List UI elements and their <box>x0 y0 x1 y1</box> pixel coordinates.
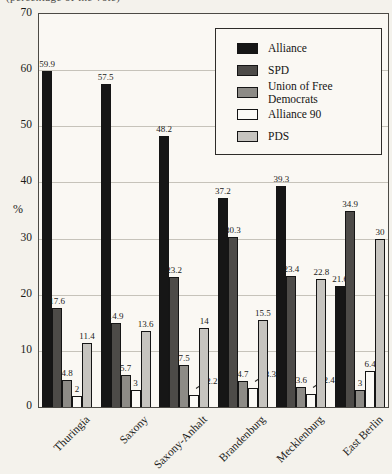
x-label-saxony-anhalt: Saxony-Anhalt <box>151 413 209 471</box>
bar-pds-thuringia <box>82 343 92 407</box>
y-tick-50: 50 <box>6 118 32 130</box>
bar-spd-mecklenburg <box>286 276 296 407</box>
clipped-caption: (percentage of the vote) <box>6 0 386 5</box>
legend-item-pds: PDS <box>237 130 381 143</box>
bar-value-label: 14.9 <box>108 311 124 321</box>
bar-value-label: 30 <box>376 227 385 237</box>
bar-value-label: 4.8 <box>61 368 72 378</box>
bar-alliance-thuringia <box>42 71 52 407</box>
bar-alliance-90-mecklenburg <box>306 394 316 407</box>
bar-spd-saxony-anhalt <box>169 277 179 407</box>
y-tick-0: 0 <box>6 399 32 411</box>
bar-pds-saxony <box>141 331 151 407</box>
y-tick-60: 60 <box>6 62 32 74</box>
bar-value-label: 48.2 <box>156 124 172 134</box>
legend-item-spd: SPD <box>237 64 381 77</box>
y-axis-unit-label: % <box>13 202 23 217</box>
bar-value-label: 37.2 <box>215 186 231 196</box>
bar-value-label: 17.6 <box>49 296 65 306</box>
x-label-mecklenburg: Mecklenburg <box>274 413 326 465</box>
legend-color-swatch-alliance <box>237 43 258 54</box>
bar-value-label: 3 <box>133 378 138 388</box>
x-label-thuringia: Thuringia <box>51 413 92 454</box>
y-tick-10: 10 <box>6 343 32 355</box>
bar-union-of-free-democrats-east-berlin <box>355 390 365 407</box>
bar-spd-thuringia <box>52 308 62 407</box>
bar-pds-saxony-anhalt <box>199 328 209 407</box>
x-label-brandenburg: Brandenburg <box>216 413 267 464</box>
bar-value-label: 3.6 <box>296 375 307 385</box>
bar-value-label: 11.4 <box>79 331 94 341</box>
bar-union-of-free-democrats-saxony <box>121 375 131 407</box>
gridline-40 <box>39 182 388 183</box>
bar-pds-mecklenburg <box>316 279 326 407</box>
y-tick-70: 70 <box>6 6 32 18</box>
bar-pds-brandenburg <box>258 320 268 407</box>
bar-alliance-90-saxony <box>131 390 141 407</box>
bar-alliance-90-east-berlin <box>365 371 375 407</box>
bar-spd-east-berlin <box>345 211 355 407</box>
bar-chart-figure: (percentage of the vote) % 59.917.64.821… <box>0 0 392 474</box>
legend-item-alliance: Alliance <box>237 42 381 55</box>
bar-value-label: 4.7 <box>237 369 248 379</box>
bar-alliance-90-saxony-anhalt <box>189 395 199 407</box>
bar-alliance-saxony <box>101 84 111 407</box>
bar-value-label: 23.2 <box>166 265 182 275</box>
bar-value-label: 23.4 <box>284 264 300 274</box>
bar-value-label: 30.3 <box>225 225 241 235</box>
bar-value-label: 5.7 <box>120 363 131 373</box>
x-label-saxony: Saxony <box>117 413 150 446</box>
legend-color-swatch-pds <box>237 131 258 142</box>
bar-value-label: 59.9 <box>39 59 55 69</box>
legend-item-union-of-free-democrats: Union of Free Democrats <box>237 86 381 99</box>
gridline-30 <box>39 239 388 240</box>
bar-value-label: 7.5 <box>179 353 190 363</box>
legend-color-swatch-union-of-free-democrats <box>237 87 258 98</box>
legend-label-alliance: Alliance <box>268 42 307 55</box>
bar-alliance-90-thuringia <box>72 396 82 407</box>
bar-value-label: 15.5 <box>255 308 271 318</box>
bar-value-label: 3 <box>358 378 363 388</box>
bar-value-label: 39.3 <box>274 174 290 184</box>
bar-union-of-free-democrats-saxony-anhalt <box>179 365 189 407</box>
bar-value-label: 34.9 <box>342 199 358 209</box>
bar-value-label: 14 <box>200 316 209 326</box>
y-tick-40: 40 <box>6 174 32 186</box>
bar-alliance-90-brandenburg <box>248 388 258 407</box>
caption-text: (percentage of the vote) <box>6 0 386 3</box>
bar-value-label: 22.8 <box>314 267 330 277</box>
bar-pds-east-berlin <box>375 239 385 407</box>
bar-value-label: 6.4 <box>364 359 375 369</box>
bar-alliance-mecklenburg <box>276 186 286 407</box>
bar-value-label: 57.5 <box>98 72 114 82</box>
legend-color-swatch-spd <box>237 65 258 76</box>
bar-union-of-free-democrats-mecklenburg <box>296 387 306 407</box>
legend-item-alliance-90: Alliance 90 <box>237 108 381 121</box>
legend-label-alliance-90: Alliance 90 <box>268 108 321 121</box>
legend-color-swatch-alliance-90 <box>237 109 258 120</box>
bar-union-of-free-democrats-thuringia <box>62 380 72 407</box>
y-tick-20: 20 <box>6 287 32 299</box>
legend-label-union-of-free-democrats: Union of Free Democrats <box>268 80 381 106</box>
bar-alliance-east-berlin <box>335 286 345 407</box>
legend-label-spd: SPD <box>268 64 289 77</box>
legend: AllianceSPDUnion of Free DemocratsAllian… <box>215 28 382 155</box>
bar-value-label: 13.6 <box>138 319 154 329</box>
bar-spd-brandenburg <box>228 237 238 407</box>
y-tick-30: 30 <box>6 231 32 243</box>
bar-union-of-free-democrats-brandenburg <box>238 381 248 407</box>
legend-label-pds: PDS <box>268 130 289 143</box>
bar-value-label: 2 <box>75 384 80 394</box>
x-label-east-berlin: East Berlin <box>340 413 385 458</box>
